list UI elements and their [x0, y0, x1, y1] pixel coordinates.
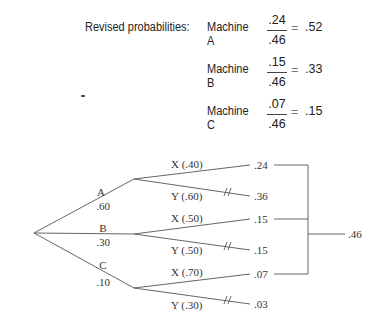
b-y-label: Y (.50) [171, 244, 203, 257]
blocked-marker-b [224, 242, 231, 250]
c-x-joint: .07 [254, 268, 268, 280]
branch-b-line [34, 233, 134, 234]
branch-b-prob: .30 [96, 236, 110, 248]
c-y-label: Y (.30) [171, 299, 203, 312]
branch-b-label: B [99, 222, 106, 234]
blocked-marker-a [224, 188, 231, 196]
a-x-joint: .24 [254, 159, 268, 171]
blocked-marker-c [224, 296, 231, 304]
b-x-label: X (.50) [171, 212, 203, 225]
branch-c-line [34, 233, 134, 288]
b-x-joint: .15 [254, 213, 268, 225]
b-y-joint: .15 [254, 244, 268, 256]
c-y-joint: .03 [254, 298, 268, 310]
c-x-label: X (.70) [171, 266, 203, 279]
probability-tree: A .60 B .30 C .10 X (.40) Y (.60) X (.50… [0, 0, 377, 331]
total-probability: .46 [348, 228, 362, 240]
tree-lines [34, 165, 345, 304]
branch-a-line [34, 179, 134, 233]
branch-c-prob: .10 [96, 276, 110, 288]
branch-a-label: A [97, 186, 105, 198]
branch-a-prob: .60 [96, 200, 110, 212]
a-y-label: Y (.60) [171, 190, 203, 203]
branch-c-label: C [99, 259, 106, 271]
a-y-joint: .36 [254, 190, 268, 202]
a-x-label: X (.40) [171, 158, 203, 171]
